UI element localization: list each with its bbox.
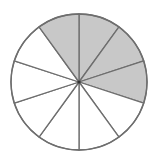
fraction-circle	[0, 0, 151, 157]
center-point	[77, 80, 80, 83]
